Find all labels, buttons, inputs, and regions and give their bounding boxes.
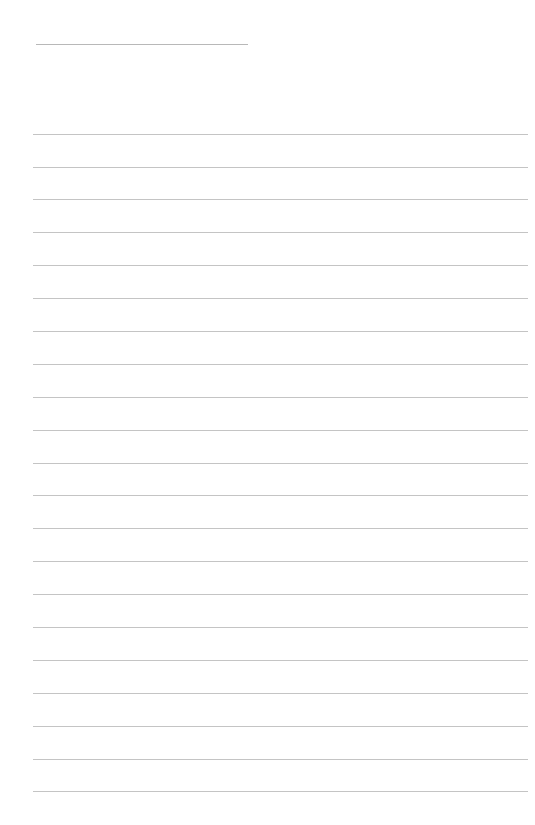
ruled-line: [33, 430, 528, 431]
ruled-line: [33, 265, 528, 266]
ruled-line: [33, 791, 528, 792]
ruled-line: [33, 232, 528, 233]
ruled-line: [33, 594, 528, 595]
ruled-line: [33, 660, 528, 661]
ruled-line: [33, 298, 528, 299]
ruled-line: [33, 199, 528, 200]
ruled-line: [33, 495, 528, 496]
ruled-line: [33, 167, 528, 168]
ruled-line: [33, 331, 528, 332]
ruled-line: [33, 134, 528, 135]
notepaper-page: [0, 0, 535, 825]
ruled-line: [33, 693, 528, 694]
ruled-line: [33, 627, 528, 628]
ruled-line: [33, 397, 528, 398]
title-line: [36, 44, 248, 45]
ruled-line: [33, 726, 528, 727]
ruled-line: [33, 561, 528, 562]
ruled-line: [33, 463, 528, 464]
ruled-line: [33, 528, 528, 529]
ruled-line: [33, 364, 528, 365]
ruled-line: [33, 759, 528, 760]
